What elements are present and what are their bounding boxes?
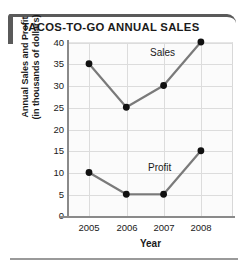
data-point: [198, 147, 205, 154]
data-point: [86, 60, 93, 67]
data-point: [160, 82, 167, 89]
x-tick-2007: 2007: [144, 222, 184, 233]
data-point: [160, 191, 167, 198]
x-tick-2005: 2005: [69, 222, 109, 233]
data-point: [123, 104, 130, 111]
sales-line: [89, 42, 201, 107]
x-tick-2008: 2008: [181, 222, 221, 233]
data-point: [123, 191, 130, 198]
sales-markers: [86, 39, 205, 111]
data-point: [86, 169, 93, 176]
x-tick-2006: 2006: [107, 222, 147, 233]
chart-page: TACOS-TO-GO ANNUAL SALES 40 35 30 25 20 …: [0, 0, 248, 268]
x-axis-title: Year: [68, 238, 233, 249]
series-label-sales: Sales: [150, 47, 175, 58]
data-point: [198, 39, 205, 46]
profit-markers: [86, 147, 205, 197]
profit-line: [89, 151, 201, 195]
series-label-profit: Profit: [148, 162, 171, 173]
footer-divider: [10, 258, 238, 260]
